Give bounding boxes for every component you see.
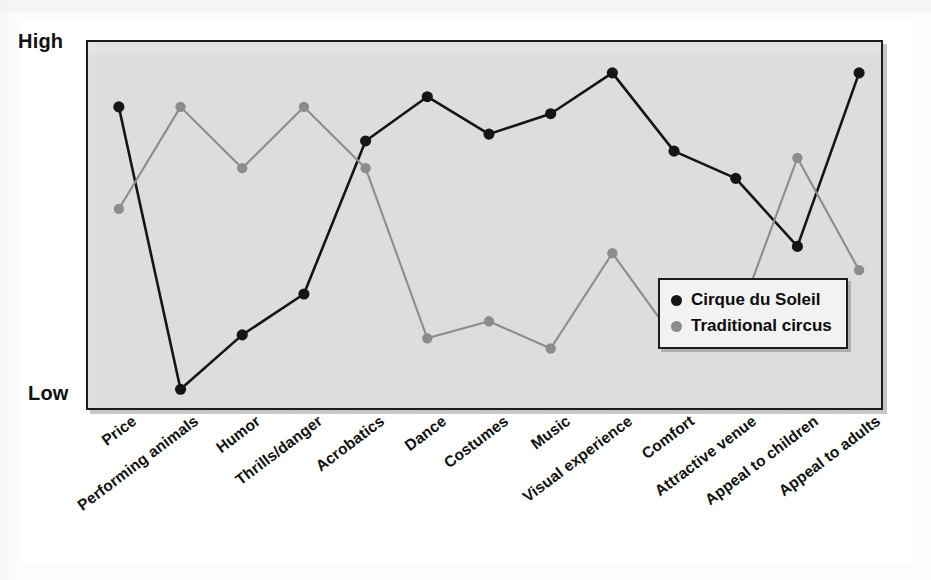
data-point-marker xyxy=(730,173,741,184)
x-axis-label-price: Price xyxy=(98,412,140,449)
data-point-marker xyxy=(607,67,618,78)
line-chart-canvas xyxy=(88,42,881,408)
data-point-marker xyxy=(607,248,617,258)
x-axis-label-acrobatics: Acrobatics xyxy=(312,412,388,475)
legend-item-traditional-circus: Traditional circus xyxy=(671,313,832,339)
data-point-marker xyxy=(792,241,803,252)
data-point-marker xyxy=(113,101,124,112)
legend-marker-circle-icon xyxy=(671,321,682,332)
y-axis-low-label: Low xyxy=(28,382,69,405)
x-axis-label-comfort: Comfort xyxy=(638,412,698,463)
x-axis-label-appeal-to-children: Appeal to children xyxy=(702,412,822,509)
data-point-marker xyxy=(299,102,309,112)
x-axis-label-costumes: Costumes xyxy=(441,412,512,472)
data-point-marker xyxy=(237,163,247,173)
x-axis-label-humor: Humor xyxy=(213,412,264,457)
data-point-marker xyxy=(422,91,433,102)
plot-area xyxy=(86,40,883,410)
data-point-marker xyxy=(237,329,248,340)
page-background: High Low PricePerforming animalsHumorThr… xyxy=(0,0,931,580)
legend-marker-circle-icon xyxy=(671,295,682,306)
data-point-marker xyxy=(483,129,494,140)
legend-item-label: Cirque du Soleil xyxy=(691,290,820,310)
data-point-marker xyxy=(854,67,865,78)
y-axis-high-label: High xyxy=(18,30,63,53)
data-point-marker xyxy=(668,146,679,157)
figure-container: High Low PricePerforming animalsHumorThr… xyxy=(18,20,913,565)
data-point-marker xyxy=(114,204,124,214)
data-point-marker xyxy=(360,163,370,173)
x-axis-label-dance: Dance xyxy=(401,412,449,455)
data-point-marker xyxy=(175,384,186,395)
data-point-marker xyxy=(175,102,185,112)
x-axis-label-visual-experience: Visual experience xyxy=(519,412,636,506)
x-axis-label-music: Music xyxy=(528,412,574,453)
data-point-marker xyxy=(545,343,555,353)
data-point-marker xyxy=(484,316,494,326)
data-point-marker xyxy=(298,289,309,300)
data-point-marker xyxy=(360,135,371,146)
data-point-marker xyxy=(792,153,802,163)
x-axis-labels: PricePerforming animalsHumorThrills/dang… xyxy=(86,412,883,562)
data-point-marker xyxy=(854,265,864,275)
legend-item-cirque-du-soleil: Cirque du Soleil xyxy=(671,287,832,313)
legend-item-label: Traditional circus xyxy=(691,316,832,336)
data-point-marker xyxy=(422,333,432,343)
data-point-marker xyxy=(545,108,556,119)
chart-legend: Cirque du SoleilTraditional circus xyxy=(658,278,848,349)
